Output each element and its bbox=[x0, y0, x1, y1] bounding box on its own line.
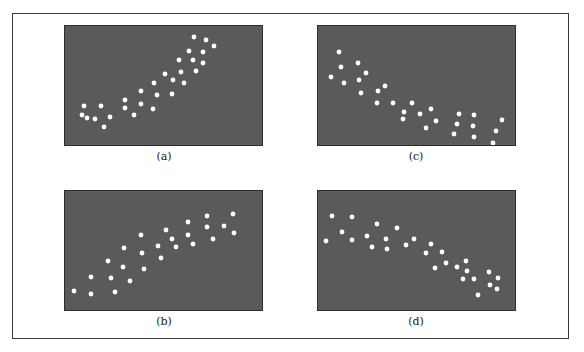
data-point bbox=[123, 106, 128, 111]
data-point bbox=[495, 287, 500, 292]
data-point bbox=[106, 259, 111, 264]
data-point bbox=[476, 293, 481, 298]
data-point bbox=[488, 283, 493, 288]
data-point bbox=[472, 135, 477, 140]
data-point bbox=[429, 107, 434, 112]
data-point bbox=[121, 265, 126, 270]
data-point bbox=[192, 35, 197, 40]
data-point bbox=[72, 289, 77, 294]
data-point bbox=[433, 266, 438, 271]
data-point bbox=[170, 237, 175, 242]
data-point bbox=[370, 245, 375, 250]
scatter-plot-a bbox=[65, 26, 263, 146]
data-point bbox=[444, 261, 449, 266]
data-point bbox=[385, 247, 390, 252]
data-point bbox=[164, 228, 169, 233]
data-point bbox=[402, 110, 407, 115]
data-point bbox=[383, 84, 388, 89]
data-point bbox=[159, 256, 164, 261]
data-point bbox=[401, 117, 406, 122]
data-point bbox=[375, 101, 380, 106]
scatter-plot-c bbox=[318, 26, 516, 146]
data-point bbox=[93, 117, 98, 122]
data-point bbox=[376, 89, 381, 94]
data-point bbox=[123, 98, 128, 103]
data-point bbox=[434, 119, 439, 124]
data-point bbox=[212, 44, 217, 49]
data-point bbox=[356, 61, 361, 66]
data-point bbox=[163, 72, 168, 77]
data-point bbox=[491, 141, 496, 146]
caption-b: (b) bbox=[134, 315, 194, 328]
data-point bbox=[201, 61, 206, 66]
scatter-plot-b bbox=[65, 191, 263, 311]
data-point bbox=[339, 65, 344, 70]
data-point bbox=[205, 214, 210, 219]
data-point bbox=[177, 58, 182, 63]
data-point bbox=[461, 277, 466, 282]
data-point bbox=[452, 132, 457, 137]
data-point bbox=[337, 50, 342, 55]
data-point bbox=[455, 265, 460, 270]
data-point bbox=[391, 101, 396, 106]
data-point bbox=[329, 75, 334, 80]
data-point bbox=[375, 222, 380, 227]
caption-c: (c) bbox=[386, 150, 446, 163]
caption-d: (d) bbox=[386, 315, 446, 328]
caption-a: (a) bbox=[134, 150, 194, 163]
data-point bbox=[204, 38, 209, 43]
data-point bbox=[350, 215, 355, 220]
data-point bbox=[384, 237, 389, 242]
data-point bbox=[108, 115, 113, 120]
data-point bbox=[500, 118, 505, 123]
data-point bbox=[222, 224, 227, 229]
data-point bbox=[471, 124, 476, 129]
data-point bbox=[132, 113, 137, 118]
data-point bbox=[464, 259, 469, 264]
data-point bbox=[152, 81, 157, 86]
data-point bbox=[357, 78, 362, 83]
data-point bbox=[170, 92, 175, 97]
scatter-panel-c bbox=[317, 25, 516, 146]
data-point bbox=[99, 104, 104, 109]
data-point bbox=[412, 237, 417, 242]
data-point bbox=[156, 244, 161, 249]
scatter-panel-a bbox=[64, 25, 263, 146]
data-point bbox=[494, 129, 499, 134]
data-point bbox=[142, 267, 147, 272]
data-point bbox=[174, 245, 179, 250]
data-point bbox=[191, 242, 196, 247]
data-point bbox=[231, 212, 236, 217]
data-point bbox=[139, 102, 144, 107]
data-point bbox=[465, 269, 470, 274]
data-point bbox=[109, 276, 114, 281]
data-point bbox=[205, 225, 210, 230]
data-point bbox=[179, 70, 184, 75]
data-point bbox=[330, 214, 335, 219]
data-point bbox=[342, 81, 347, 86]
data-point bbox=[418, 112, 423, 117]
scatter-panel-d bbox=[317, 190, 516, 311]
data-point bbox=[440, 250, 445, 255]
data-point bbox=[113, 290, 118, 295]
data-point bbox=[496, 276, 501, 281]
data-point bbox=[194, 69, 199, 74]
data-point bbox=[395, 226, 400, 231]
data-point bbox=[232, 231, 237, 236]
data-point bbox=[155, 93, 160, 98]
data-point bbox=[359, 91, 364, 96]
data-point bbox=[424, 251, 429, 256]
data-point bbox=[139, 89, 144, 94]
data-point bbox=[139, 233, 144, 238]
data-point bbox=[324, 239, 329, 244]
data-point bbox=[365, 234, 370, 239]
data-point bbox=[89, 275, 94, 280]
data-point bbox=[350, 238, 355, 243]
data-point bbox=[455, 122, 460, 127]
data-point bbox=[429, 242, 434, 247]
data-point bbox=[410, 101, 415, 106]
data-point bbox=[457, 112, 462, 117]
scatter-panel-b bbox=[64, 190, 263, 311]
data-point bbox=[171, 78, 176, 83]
data-point bbox=[424, 126, 429, 131]
